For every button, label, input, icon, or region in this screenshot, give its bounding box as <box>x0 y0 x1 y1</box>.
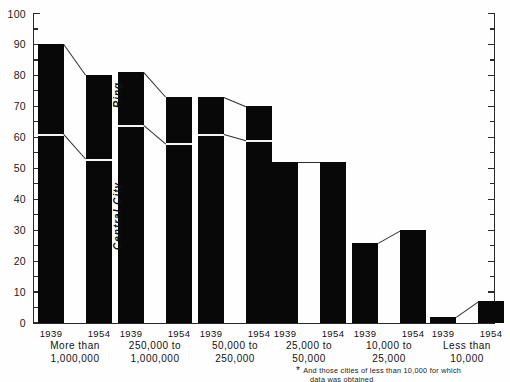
bar-4-1954 <box>400 230 426 323</box>
connector-central-city-2 <box>224 134 246 141</box>
bars-layer <box>0 0 510 382</box>
connector-total-0 <box>63 44 86 76</box>
bar-3-1954 <box>320 162 346 323</box>
connector-central-city-0 <box>63 134 86 159</box>
footnote-marker: * <box>296 365 300 376</box>
split-line-1-1954 <box>166 143 192 145</box>
connector-total-5 <box>456 301 479 317</box>
x-year-label-3-1939: 1939 <box>263 328 307 339</box>
bar-0-1954 <box>86 75 112 323</box>
split-line-0-1939 <box>38 134 64 136</box>
x-group-label-line1-5: Less than <box>392 340 510 353</box>
x-year-label-5-1939: 1939 <box>421 328 465 339</box>
split-line-2-1954 <box>246 140 272 142</box>
bar-5-1939 <box>430 317 456 323</box>
bar-3-1939 <box>272 162 298 323</box>
x-group-label-line2-5: 10,000 <box>392 353 510 366</box>
series-label-ring: Ring <box>112 82 123 108</box>
split-line-1-1939 <box>118 125 144 127</box>
connector-total-4 <box>378 230 401 243</box>
connector-central-city-1 <box>143 125 166 144</box>
bar-4-1939 <box>352 243 378 323</box>
x-year-label-5-1954: 1954 <box>469 328 510 339</box>
x-year-label-2-1939: 1939 <box>189 328 233 339</box>
x-group-label-5: Less than10,000 <box>392 340 510 365</box>
split-line-0-1954 <box>86 159 112 161</box>
bar-2-1939 <box>198 97 224 323</box>
x-year-label-0-1939: 1939 <box>29 328 73 339</box>
x-year-label-1-1939: 1939 <box>109 328 153 339</box>
connector-total-2 <box>224 97 246 107</box>
footnote: *And those cities of less than 10,000 fo… <box>296 367 461 382</box>
bar-5-1954 <box>478 301 504 323</box>
bar-1-1954 <box>166 97 192 323</box>
connector-total-3 <box>298 162 320 163</box>
bar-0-1939 <box>38 44 64 323</box>
chart-canvas: 0102030405060708090100 Ring Central City… <box>0 0 510 382</box>
footnote-line-2: data was obtained <box>310 375 373 382</box>
bar-2-1954 <box>246 106 272 323</box>
x-year-label-4-1939: 1939 <box>343 328 387 339</box>
series-label-central-city: Central City <box>112 182 123 250</box>
connector-total-1 <box>143 72 166 97</box>
split-line-2-1939 <box>198 134 224 136</box>
